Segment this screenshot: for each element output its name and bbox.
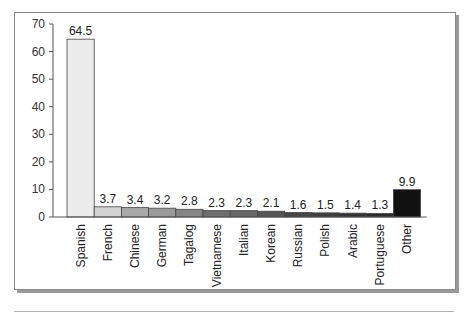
bar	[312, 213, 339, 217]
category-label: Other	[400, 224, 414, 254]
y-tick-label: 50	[32, 72, 46, 86]
bar	[176, 209, 203, 217]
value-label: 1.4	[344, 198, 361, 212]
value-label: 2.8	[181, 194, 198, 208]
bar	[230, 211, 257, 217]
y-axis: 010203040506070	[32, 17, 53, 224]
value-label: 1.5	[317, 198, 334, 212]
category-label: Korean	[264, 224, 278, 263]
category-label: Vietnamese	[210, 224, 224, 287]
category-label: Arabic	[346, 224, 360, 258]
category-label: Chinese	[128, 224, 142, 268]
category-label: Spanish	[74, 224, 88, 267]
bar	[339, 213, 366, 217]
value-label: 2.1	[263, 196, 280, 210]
bar	[67, 39, 94, 217]
y-tick-label: 60	[32, 45, 46, 59]
category-label: Russian	[291, 224, 305, 267]
y-tick-label: 30	[32, 127, 46, 141]
category-label: Tagalog	[182, 224, 196, 266]
bar	[285, 213, 312, 217]
bar	[94, 207, 121, 217]
value-label: 1.6	[290, 198, 307, 212]
value-label: 1.3	[371, 198, 388, 212]
value-label: 2.3	[208, 196, 225, 210]
bar	[393, 190, 420, 217]
value-label: 3.7	[99, 192, 116, 206]
bar	[366, 213, 393, 217]
value-label: 3.2	[154, 193, 171, 207]
category-label: French	[101, 224, 115, 261]
y-tick-label: 70	[32, 17, 46, 31]
value-label: 3.4	[127, 193, 144, 207]
category-label: German	[155, 224, 169, 267]
x-axis: SpanishFrenchChineseGermanTagalogVietnam…	[53, 217, 427, 287]
value-label: 2.3	[235, 196, 252, 210]
category-label: Polish	[318, 224, 332, 257]
bar	[121, 208, 148, 217]
value-label: 9.9	[399, 175, 416, 189]
bar	[203, 211, 230, 217]
y-tick-label: 0	[38, 210, 45, 224]
value-label: 64.5	[69, 24, 93, 38]
bar-chart: 010203040506070 64.53.73.43.22.82.32.32.…	[0, 0, 468, 314]
y-tick-label: 10	[32, 182, 46, 196]
y-tick-label: 40	[32, 100, 46, 114]
bar	[149, 208, 176, 217]
y-tick-label: 20	[32, 155, 46, 169]
category-label: Portuguese	[373, 224, 387, 286]
bars: 64.53.73.43.22.82.32.32.11.61.51.41.39.9	[67, 24, 421, 217]
category-label: Italian	[237, 224, 251, 256]
bar	[257, 211, 284, 217]
